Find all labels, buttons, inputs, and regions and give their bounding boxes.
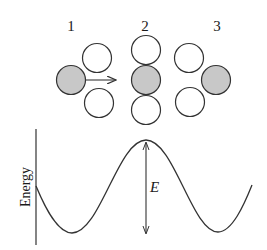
stage-3-atoms bbox=[175, 44, 231, 117]
diffusing-atom bbox=[132, 66, 161, 95]
stage-label-3: 3 bbox=[213, 18, 221, 34]
stage-1-atoms bbox=[57, 44, 117, 118]
diffusing-atom bbox=[57, 66, 86, 95]
stage-label-2: 2 bbox=[141, 18, 149, 34]
stage-2-atoms bbox=[132, 36, 161, 125]
lattice-atom bbox=[132, 36, 161, 65]
energy-axis-label: Energy bbox=[18, 167, 33, 207]
lattice-atom bbox=[85, 89, 114, 118]
stage-label-1: 1 bbox=[67, 18, 75, 34]
lattice-atom bbox=[175, 44, 204, 73]
diffusion-energy-diagram: 1 2 3 Energy E bbox=[0, 0, 267, 250]
lattice-atom bbox=[176, 88, 205, 117]
barrier-arrow-icon bbox=[143, 142, 149, 234]
diffusing-atom bbox=[202, 66, 231, 95]
lattice-atom bbox=[132, 96, 161, 125]
barrier-label: E bbox=[149, 179, 159, 195]
lattice-atom bbox=[83, 44, 112, 73]
energy-curve bbox=[36, 140, 252, 233]
